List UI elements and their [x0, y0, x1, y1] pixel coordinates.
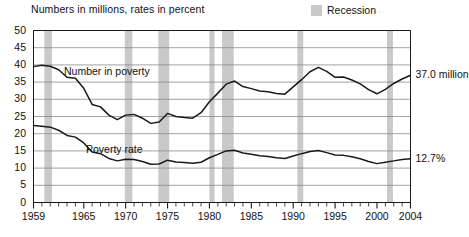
- series-label-number-in-poverty: Number in poverty: [64, 65, 150, 77]
- y-axis-label: 45: [4, 41, 26, 53]
- y-axis-label: 50: [4, 24, 26, 36]
- y-axis-label: 30: [4, 92, 26, 104]
- x-axis-label: 1959: [22, 210, 45, 222]
- x-axis-label: 1985: [240, 210, 263, 222]
- annotation-poverty-rate: 12.7%: [416, 152, 446, 164]
- y-axis-label: 25: [4, 110, 26, 122]
- x-axis-label: 1965: [72, 210, 95, 222]
- y-axis-label: 20: [4, 127, 26, 139]
- y-axis-label: 0: [4, 196, 26, 208]
- annotation-number-in-poverty: 37.0 million: [416, 68, 469, 80]
- x-axis-label: 1995: [323, 210, 346, 222]
- y-axis-label: 10: [4, 161, 26, 173]
- y-axis-label: 40: [4, 58, 26, 70]
- x-axis-label: 1970: [114, 210, 137, 222]
- y-axis-label: 35: [4, 75, 26, 87]
- x-axis-label: 1975: [156, 210, 179, 222]
- x-axis-label: 1990: [282, 210, 305, 222]
- x-axis-label: 1980: [198, 210, 221, 222]
- x-axis-label: 2000: [365, 210, 388, 222]
- y-axis-label: 5: [4, 178, 26, 190]
- series-label-poverty-rate: Poverty rate: [86, 143, 143, 155]
- x-axis-label: 2004: [399, 210, 422, 222]
- y-axis-label: 15: [4, 144, 26, 156]
